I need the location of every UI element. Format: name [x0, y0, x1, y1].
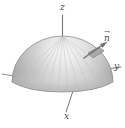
- x-axis-label: x: [64, 112, 69, 121]
- y-axis-label: y: [114, 62, 119, 71]
- hemisphere-illustration: [0, 0, 125, 128]
- normal-vector-label: → n: [104, 31, 110, 43]
- hemisphere-figure: z y x → n: [0, 0, 125, 128]
- z-axis-label: z: [60, 3, 65, 12]
- normal-vector-label-text: n: [104, 33, 110, 43]
